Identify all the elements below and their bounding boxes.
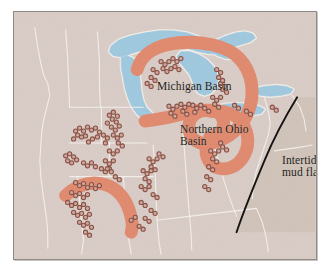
intertidal-line-1: Intertidal (282, 154, 317, 166)
map-label-michigan-basin: Michigan Basin (157, 80, 232, 92)
figure-page: Michigan Basin Northern OhioBasin Intert… (0, 0, 330, 273)
map-canvas (14, 12, 316, 259)
paper-grain-overlay (14, 12, 316, 259)
map-frame: Michigan Basin Northern OhioBasin Intert… (13, 11, 317, 260)
map-label-northern-ohio-basin: Northern OhioBasin (180, 123, 249, 147)
northern-ohio-line-2: Basin (180, 135, 207, 147)
northern-ohio-line-1: Northern Ohio (180, 123, 249, 135)
intertidal-line-2: mud flats (282, 166, 317, 178)
map-label-intertidal-mud-flats: Intertidalmud flats (282, 154, 317, 178)
